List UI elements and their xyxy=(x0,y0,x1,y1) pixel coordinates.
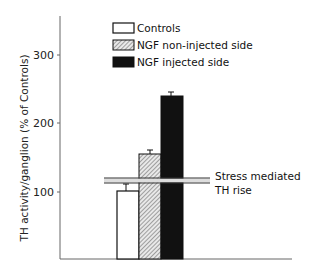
legend-label-ngf-injected: NGF injected side xyxy=(137,56,229,68)
legend-label-ngf-non-injected: NGF non-injected side xyxy=(137,39,253,51)
annotation-line1: Stress mediated xyxy=(215,170,301,182)
bar-chart: 300 200 100 TH activity/ganglion (% of C… xyxy=(0,0,309,273)
legend-label-controls: Controls xyxy=(137,22,180,34)
y-tick-label-300: 300 xyxy=(33,49,54,62)
legend-swatch-controls xyxy=(113,23,134,33)
legend-swatch-ngf-injected xyxy=(113,57,134,67)
annotation-line2: TH rise xyxy=(214,184,252,196)
bar-ngf-non-injected xyxy=(139,154,161,259)
y-tick-label-200: 200 xyxy=(33,117,54,130)
y-tick-label-100: 100 xyxy=(33,186,54,199)
bar-controls xyxy=(117,191,139,259)
legend-swatch-ngf-non-injected xyxy=(113,40,134,50)
stress-band-fill xyxy=(104,179,210,183)
y-axis-title: TH activity/ganglion (% of Controls) xyxy=(18,55,30,243)
